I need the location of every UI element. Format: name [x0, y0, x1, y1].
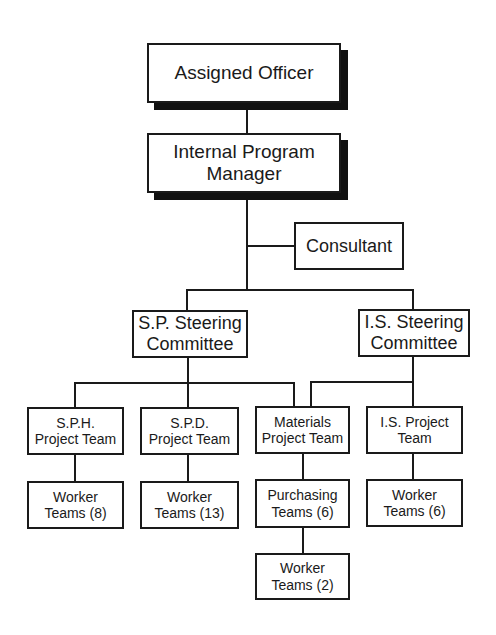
node-label: Consultant	[306, 236, 392, 257]
node-is-worker-teams: Worker Teams (6)	[366, 479, 463, 527]
node-label-line1: S.P. Steering	[138, 313, 242, 334]
node-label-line1: I.S. Project	[380, 414, 448, 430]
node-sph-project-team: S.P.H. Project Team	[27, 407, 124, 455]
connector-materials-to-purchasing	[302, 453, 304, 479]
node-label-line1: S.P.H.	[56, 415, 95, 431]
node-sph-worker-teams: Worker Teams (8)	[27, 481, 124, 529]
node-is-steering-committee: I.S. Steering Committee	[358, 309, 470, 357]
node-is-project-team: I.S. Project Team	[366, 406, 463, 454]
node-label-line2: Project Team	[262, 430, 343, 446]
node-purchasing-teams: Purchasing Teams (6)	[255, 479, 350, 528]
org-chart: Assigned Officer Internal Program Manage…	[0, 0, 496, 635]
connector-purchasing-to-workers	[302, 527, 304, 553]
node-label: Assigned Officer	[174, 62, 313, 84]
connector-bar-to-is-steering	[412, 289, 414, 309]
node-materials-project-team: Materials Project Team	[255, 406, 350, 454]
node-label-line2: Teams (6)	[271, 504, 333, 520]
node-label-line1: Internal Program	[173, 141, 315, 163]
node-label-line1: Worker	[53, 489, 98, 505]
node-label-line1: Purchasing	[267, 487, 337, 503]
node-internal-program-manager: Internal Program Manager	[147, 133, 341, 193]
connector-sp-to-sph	[74, 382, 76, 407]
connector-is-to-materials	[310, 381, 312, 406]
node-label-line2: Team	[397, 430, 431, 446]
node-label-line2: Teams (8)	[44, 505, 106, 521]
node-label-line1: Worker	[392, 487, 437, 503]
node-label-line2: Teams (13)	[154, 505, 224, 521]
node-spd-worker-teams: Worker Teams (13)	[140, 481, 239, 529]
connector-sph-to-workers	[74, 454, 76, 481]
connector-bar-to-sp-steering	[186, 289, 188, 310]
node-purchasing-worker-teams: Worker Teams (2)	[255, 553, 350, 600]
node-label-line2: Teams (2)	[271, 577, 333, 593]
node-assigned-officer: Assigned Officer	[147, 43, 341, 103]
node-label-line1: Materials	[274, 414, 331, 430]
connector-sp-to-materials	[293, 382, 295, 406]
connector-sp-to-spd	[187, 382, 189, 407]
node-label-line1: S.P.D.	[170, 415, 209, 431]
connector-spd-to-workers	[187, 454, 189, 481]
node-label-line2: Teams (6)	[383, 503, 445, 519]
node-label-line1: Worker	[280, 560, 325, 576]
connector-sp-project-bar	[74, 382, 295, 384]
node-label-line1: Worker	[167, 489, 212, 505]
connector-is-project-to-workers	[412, 453, 414, 479]
node-spd-project-team: S.P.D. Project Team	[140, 407, 239, 455]
node-label-line2: Manager	[207, 163, 282, 185]
connector-ipm-trunk	[246, 192, 248, 291]
node-label-line2: Project Team	[149, 431, 230, 447]
node-sp-steering-committee: S.P. Steering Committee	[132, 310, 248, 358]
node-label-line2: Committee	[146, 334, 233, 355]
node-label-line2: Project Team	[35, 431, 116, 447]
node-label-line1: I.S. Steering	[364, 312, 463, 333]
connector-sp-steering-trunk	[187, 357, 189, 384]
connector-steering-bar	[186, 289, 414, 291]
connector-is-bar	[310, 381, 414, 383]
node-label-line2: Committee	[370, 333, 457, 354]
connector-ipm-to-consultant	[246, 245, 294, 247]
node-consultant: Consultant	[294, 222, 404, 270]
